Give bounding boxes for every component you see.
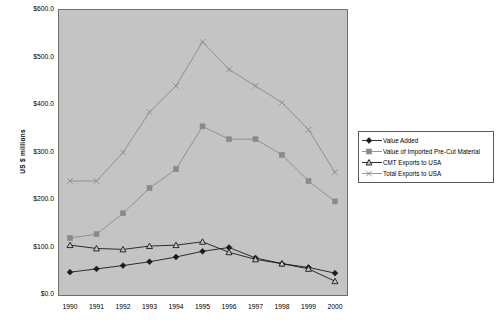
data-point-cross	[226, 67, 232, 73]
data-point-square	[200, 124, 205, 129]
data-point-triangle-open	[226, 249, 232, 254]
data-point-cross	[200, 39, 206, 45]
x-tick-label: 1997	[241, 303, 271, 310]
legend-marker-square-icon	[361, 146, 383, 157]
data-point-diamond	[94, 266, 100, 272]
data-point-triangle-open	[67, 242, 73, 247]
data-point-cross	[253, 83, 259, 89]
legend-item-3[interactable]: Total Exports to USA	[361, 168, 491, 179]
y-tick-label: $200.0	[8, 195, 54, 202]
data-point-cross	[306, 127, 312, 133]
legend-item-2[interactable]: CMT Exports to USA	[361, 157, 491, 168]
y-tick-label: $400.0	[8, 100, 54, 107]
x-tick-label: 1990	[55, 303, 85, 310]
legend-item-0[interactable]: Value Added	[361, 135, 491, 146]
data-point-triangle-open	[332, 278, 338, 283]
x-tick-label: 2000	[320, 303, 350, 310]
x-tick-label: 1996	[214, 303, 244, 310]
legend-label: Value Added	[383, 135, 418, 146]
data-point-square	[68, 236, 73, 241]
data-point-diamond	[120, 263, 126, 269]
x-tick-label: 1991	[82, 303, 112, 310]
series-0	[67, 245, 338, 276]
line-chart: US $ millions $0.0$100.0$200.0$300.0$400…	[0, 0, 497, 327]
data-point-diamond	[200, 248, 206, 254]
y-tick-label: $0.0	[8, 290, 54, 297]
data-point-cross	[120, 150, 126, 156]
legend-label: CMT Exports to USA	[383, 157, 441, 168]
x-tick-label: 1993	[135, 303, 165, 310]
data-point-cross	[173, 83, 179, 89]
series-3	[67, 39, 338, 184]
data-point-cross	[147, 109, 153, 115]
legend-label: Total Exports to USA	[383, 168, 441, 179]
legend-item-1[interactable]: Value of Imported Pre-Cut Material	[361, 146, 491, 157]
x-tick-label: 1999	[294, 303, 324, 310]
series-canvas	[59, 10, 347, 295]
data-point-diamond	[173, 254, 179, 260]
data-point-square	[367, 149, 372, 154]
x-tick-label: 1995	[188, 303, 218, 310]
data-point-square	[174, 167, 179, 172]
data-point-triangle-open	[200, 239, 206, 244]
data-point-diamond	[366, 138, 372, 144]
y-tick-label: $300.0	[8, 148, 54, 155]
x-tick-label: 1992	[108, 303, 138, 310]
data-point-square	[306, 179, 311, 184]
y-tick-label: $500.0	[8, 53, 54, 60]
data-point-square	[227, 137, 232, 142]
y-tick-label: $100.0	[8, 243, 54, 250]
legend-marker-triangle-open-icon	[361, 157, 383, 168]
series-2	[67, 239, 338, 284]
data-point-square	[280, 152, 285, 157]
data-point-square	[253, 137, 258, 142]
data-point-square	[94, 232, 99, 237]
y-tick-label: $600.0	[8, 5, 54, 12]
series-1	[68, 124, 338, 241]
legend-marker-diamond-icon	[361, 135, 383, 146]
data-point-diamond	[332, 270, 338, 276]
x-tick-label: 1994	[161, 303, 191, 310]
data-point-diamond	[67, 269, 73, 275]
data-point-square	[147, 186, 152, 191]
data-point-cross	[332, 170, 338, 176]
legend-label: Value of Imported Pre-Cut Material	[383, 146, 480, 157]
plot-area	[58, 9, 348, 296]
data-point-square	[333, 199, 338, 204]
data-point-square	[121, 211, 126, 216]
data-point-cross	[279, 100, 285, 106]
x-tick-label: 1998	[267, 303, 297, 310]
y-axis-tick-labels: $0.0$100.0$200.0$300.0$400.0$500.0$600.0	[0, 0, 54, 327]
chart-legend: Value AddedValue of Imported Pre-Cut Mat…	[358, 131, 494, 183]
data-point-diamond	[147, 259, 153, 265]
legend-marker-cross-icon	[361, 168, 383, 179]
